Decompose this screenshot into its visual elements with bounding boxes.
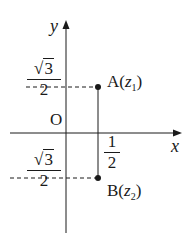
y-tick-negative-numerator: √3 [27,151,61,169]
point-b-name: B [107,181,118,200]
point-a-complex: z [125,72,132,91]
y-axis-label: y [50,17,58,35]
complex-plane-diagram: y x O √3 2 − √3 2 1 2 A(z1) B(z2) [0,0,190,235]
y-axis-arrow-icon [63,20,70,29]
x-tick: 1 2 [104,133,120,172]
origin-label: O [50,111,62,128]
x-tick-denominator: 2 [104,154,120,172]
y-tick-positive-denominator: 2 [27,81,61,99]
axes-and-lines [0,0,190,235]
point-b-subscript: 2 [131,191,136,202]
point-b [95,175,101,181]
point-a-name: A [107,72,119,91]
x-axis-label: x [171,137,179,155]
y-tick-negative: √3 2 [27,151,61,190]
point-a-label: A(z1) [107,73,142,90]
y-tick-positive-numerator: √3 [27,60,61,78]
y-tick-positive: √3 2 [27,60,61,99]
point-b-label: B(z2) [107,182,141,199]
point-a [95,84,101,90]
point-a-subscript: 1 [132,82,137,93]
x-tick-numerator: 1 [104,133,120,151]
y-tick-negative-denominator: 2 [27,172,61,190]
point-b-complex: z [124,181,131,200]
